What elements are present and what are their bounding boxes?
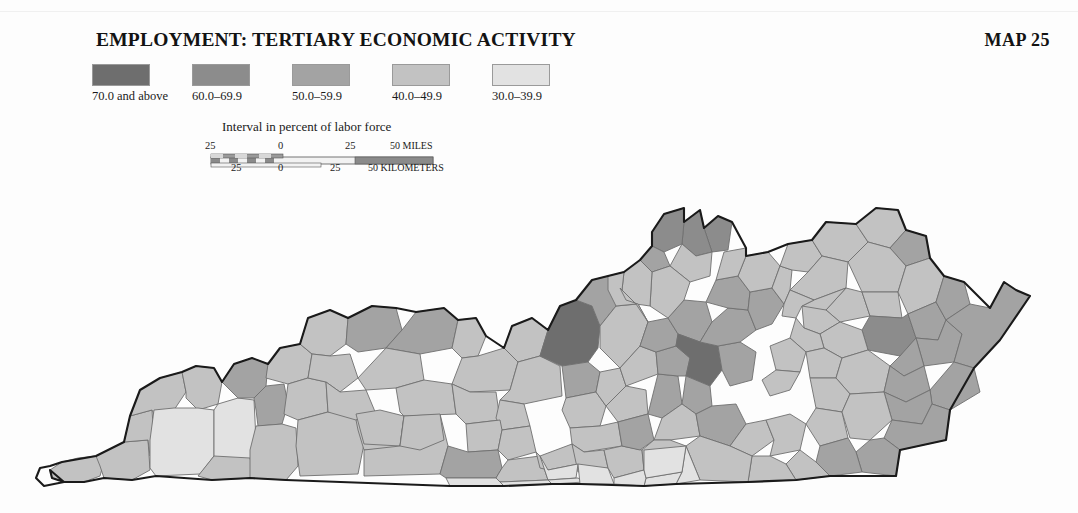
county-jefferson[interactable] (540, 300, 600, 366)
county-graves[interactable] (150, 408, 214, 476)
county-christian[interactable] (296, 412, 364, 476)
county-mccreary[interactable] (748, 456, 796, 482)
county-leslie[interactable] (842, 392, 892, 440)
county-hickman[interactable] (96, 440, 150, 480)
map-page: EMPLOYMENT: TERTIARY ECONOMIC ACTIVITY M… (0, 0, 1078, 513)
county-boone[interactable] (652, 208, 684, 252)
county-todd[interactable] (356, 410, 404, 446)
county-union[interactable] (300, 310, 348, 356)
county-crittenden[interactable] (266, 344, 312, 384)
counties-layer (50, 208, 1030, 486)
county-simpson[interactable] (446, 478, 504, 486)
kentucky-county-map[interactable] (0, 0, 1078, 513)
county-trigg[interactable] (250, 424, 298, 480)
county-jackson[interactable] (762, 370, 800, 396)
county-clark[interactable] (718, 342, 756, 386)
county-ohio[interactable] (396, 380, 456, 416)
county-hancock[interactable] (452, 318, 486, 358)
county-edmonson[interactable] (466, 420, 502, 452)
county-hart[interactable] (498, 426, 536, 460)
